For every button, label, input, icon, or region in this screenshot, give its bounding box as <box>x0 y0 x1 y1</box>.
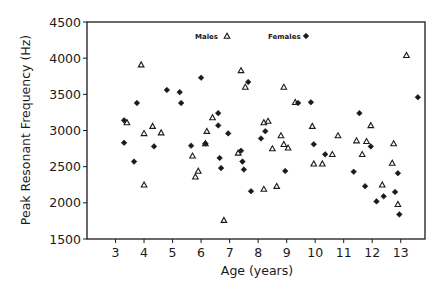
y-tick-label: 2000 <box>49 195 81 210</box>
diamond-icon <box>282 168 288 174</box>
triangle-icon <box>391 141 397 146</box>
triangle-icon <box>158 130 164 135</box>
triangle-icon <box>224 33 230 38</box>
triangle-icon <box>278 133 284 138</box>
x-tick-label: 11 <box>336 245 352 260</box>
chart-canvas: 1500200025003000350040004500 34567891011… <box>0 0 440 289</box>
series-females <box>121 75 420 217</box>
y-tick-label: 3000 <box>49 123 81 138</box>
triangle-icon <box>141 182 147 187</box>
x-tick-label: 13 <box>393 245 409 260</box>
triangle-icon <box>359 152 365 157</box>
diamond-icon <box>351 169 357 175</box>
triangle-icon <box>395 201 401 206</box>
triangle-icon <box>389 160 395 165</box>
x-axis-title: Age (years) <box>221 263 293 278</box>
x-tick-label: 3 <box>112 245 120 260</box>
x-tick-label: 4 <box>140 245 148 260</box>
diamond-icon <box>225 131 231 137</box>
triangle-icon <box>364 139 370 144</box>
x-tick-label: 10 <box>307 245 323 260</box>
x-tick-label: 8 <box>254 245 262 260</box>
diamond-icon <box>395 170 401 176</box>
triangle-icon <box>311 161 317 166</box>
x-tick-label: 12 <box>364 245 380 260</box>
triangle-icon <box>379 182 385 187</box>
triangle-icon <box>354 138 360 143</box>
y-tick-label: 2500 <box>49 159 81 174</box>
triangle-icon <box>261 186 267 191</box>
triangle-icon <box>335 133 341 138</box>
legend-label-males: Males <box>195 33 218 41</box>
triangle-icon <box>368 123 374 128</box>
diamond-icon <box>415 94 421 100</box>
triangle-icon <box>270 146 276 151</box>
triangle-icon <box>138 62 144 67</box>
diamond-icon <box>245 79 251 85</box>
y-tick-label: 3500 <box>49 87 81 102</box>
diamond-icon <box>134 100 140 106</box>
diamond-icon <box>303 33 309 39</box>
y-tick-label: 4500 <box>49 15 81 30</box>
x-tick-label: 7 <box>226 245 234 260</box>
x-tick-label: 9 <box>283 245 291 260</box>
diamond-icon <box>198 75 204 81</box>
diamond-icon <box>217 155 223 161</box>
triangle-icon <box>224 33 230 38</box>
triangle-icon <box>204 128 210 133</box>
diamond-icon <box>240 159 246 165</box>
diamond-icon <box>311 141 317 147</box>
diamond-icon <box>374 199 380 205</box>
triangle-icon <box>404 52 410 57</box>
diamond-icon <box>121 140 127 146</box>
diamond-icon <box>151 144 157 150</box>
triangle-icon <box>274 183 280 188</box>
diamond-icon <box>258 136 264 142</box>
y-tick-label: 1500 <box>49 232 81 247</box>
plot-frame <box>87 22 425 239</box>
diamond-icon <box>241 167 247 173</box>
y-tick-label: 4000 <box>49 51 81 66</box>
diamond-icon <box>178 100 184 106</box>
triangle-icon <box>238 68 244 73</box>
diamond-icon <box>164 87 170 93</box>
triangle-icon <box>265 118 271 123</box>
series-males <box>124 52 409 222</box>
x-tick-label: 6 <box>197 245 205 260</box>
triangle-icon <box>141 131 147 136</box>
triangle-icon <box>193 174 199 179</box>
diamond-icon <box>368 144 374 150</box>
diamond-icon <box>215 123 221 129</box>
triangle-icon <box>221 217 227 222</box>
triangle-icon <box>195 168 201 173</box>
triangle-icon <box>281 141 287 146</box>
legend-label-females: Females <box>268 33 301 41</box>
x-tick-label: 5 <box>169 245 177 260</box>
diamond-icon <box>397 212 403 218</box>
triangle-icon <box>320 161 326 166</box>
diamond-icon <box>131 159 137 165</box>
diamond-icon <box>392 189 398 195</box>
legend: Males Females <box>195 33 309 41</box>
triangle-icon <box>210 115 216 120</box>
diamond-icon <box>362 183 368 189</box>
x-axis: 345678910111213 <box>112 239 409 260</box>
diamond-icon <box>177 89 183 95</box>
diamond-icon <box>188 143 194 149</box>
diamond-icon <box>218 165 224 171</box>
diamond-icon <box>215 110 221 116</box>
triangle-icon <box>190 153 196 158</box>
diamond-icon <box>262 128 268 134</box>
data-points <box>121 52 420 222</box>
diamond-icon <box>322 152 328 158</box>
triangle-icon <box>243 84 249 89</box>
triangle-icon <box>281 84 287 89</box>
diamond-icon <box>381 194 387 200</box>
y-axis: 1500200025003000350040004500 <box>49 15 87 247</box>
scatter-chart: 1500200025003000350040004500 34567891011… <box>0 0 440 289</box>
diamond-icon <box>303 33 309 39</box>
triangle-icon <box>329 152 335 157</box>
triangle-icon <box>150 123 156 128</box>
diamond-icon <box>308 99 314 105</box>
y-axis-title: Peak Resonant Frequency (Hz) <box>18 35 33 225</box>
